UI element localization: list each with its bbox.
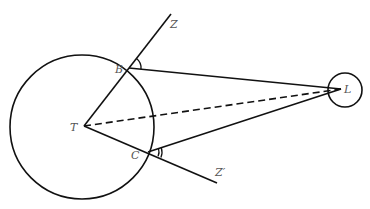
angle-mark-b <box>137 59 142 70</box>
label-b: B <box>114 63 123 76</box>
earth-circle <box>10 55 154 199</box>
line-t-l-dashed <box>84 89 341 126</box>
angle-mark-c-outer <box>161 148 162 158</box>
line-b-l <box>129 68 341 89</box>
line-t-z <box>84 14 171 126</box>
line-t-zprime <box>84 126 217 183</box>
label-c: C <box>131 149 140 162</box>
label-t: T <box>70 121 79 134</box>
label-zprime: Z′ <box>214 166 226 179</box>
angle-mark-c-inner <box>158 149 159 157</box>
parallax-diagram: T B C L Z Z′ <box>0 0 370 209</box>
label-l: L <box>343 83 351 96</box>
label-z: Z <box>169 18 178 31</box>
line-c-l <box>148 89 341 152</box>
